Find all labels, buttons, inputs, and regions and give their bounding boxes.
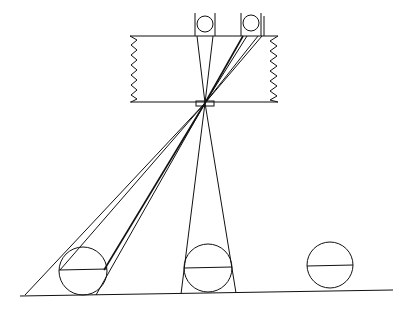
sphere-right (307, 242, 353, 288)
ray-in-6 (205, 36, 262, 103)
projected-image-1 (197, 16, 213, 32)
sphere-left (59, 247, 107, 295)
diagram-container: Pinhole camera obscura diagram: three sp… (0, 0, 405, 310)
projected-image-2 (243, 15, 259, 31)
ray-out-left-2 (60, 103, 205, 270)
ray-in-3 (205, 36, 243, 103)
ray-out-left-1 (25, 103, 205, 295)
ray-out-left-3 (104, 103, 205, 270)
ray-out-left-4 (96, 103, 205, 295)
pinhole-camera-diagram (0, 0, 405, 310)
left-zigzag-wall (130, 36, 137, 102)
ray-in-1 (197, 36, 205, 103)
sphere-middle (184, 244, 232, 292)
ground-line (20, 290, 393, 296)
right-zigzag-wall (270, 36, 278, 102)
